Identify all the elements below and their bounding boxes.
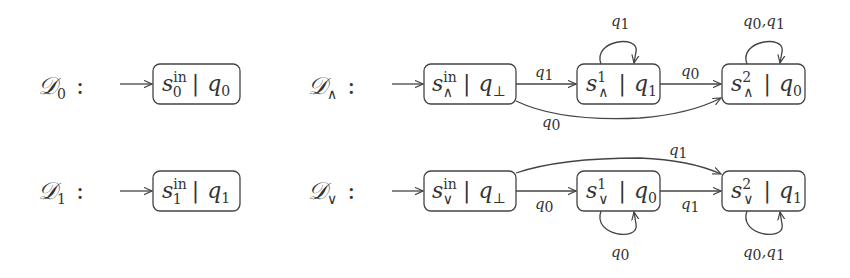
- automaton-name: 𝒟0:: [38, 72, 84, 102]
- transition-label: q0: [535, 195, 554, 215]
- svg-text:s2∨|q1: s2∨|q1: [731, 176, 802, 207]
- transition-label: q0: [681, 62, 700, 82]
- state-s-or-1: s1∨|q0: [577, 171, 660, 211]
- automaton-d0: 𝒟0: sin0|q0: [38, 64, 240, 104]
- svg-text:sin1|q1: sin1|q1: [162, 176, 230, 207]
- transition-label: q1: [681, 195, 700, 215]
- automata-diagram: 𝒟0: sin0|q0 𝒟1: sin1|q1 𝒟∧:: [0, 0, 850, 278]
- transition-label: q0,q1: [743, 243, 785, 263]
- state-s-and-in: sin∧|q⊥: [424, 64, 516, 104]
- automaton-name: 𝒟∧:: [308, 72, 355, 102]
- transition-label: q1: [669, 141, 688, 161]
- automaton-d-or: 𝒟∨: sin∨|q⊥ s1∨|q0 s2∨|q1 q0 q1 q0: [308, 141, 805, 263]
- automaton-name: 𝒟1:: [38, 177, 84, 207]
- transition-label: q1: [535, 63, 554, 83]
- state-s0-in: sin0|q0: [153, 64, 240, 104]
- self-loop-arrow-icon: [746, 42, 782, 64]
- state-s-and-1: s1∧|q1: [577, 64, 660, 104]
- svg-text:s1∧|q1: s1∧|q1: [586, 69, 657, 100]
- self-loop-arrow-icon: [600, 211, 636, 234]
- transition-label: q0: [542, 113, 561, 133]
- transition-label: q1: [611, 12, 630, 32]
- state-s-or-2: s2∨|q1: [722, 171, 805, 211]
- svg-text:s2∧|q0: s2∧|q0: [731, 69, 802, 100]
- state-s-and-2: s2∧|q0: [722, 64, 805, 104]
- self-loop-arrow-icon: [600, 42, 636, 64]
- svg-text:s1∨|q0: s1∨|q0: [586, 176, 657, 207]
- automaton-name: 𝒟∨:: [308, 177, 355, 207]
- state-s1-in: sin1|q1: [153, 171, 240, 211]
- automaton-d-and: 𝒟∧: sin∧|q⊥ s1∧|q1 s2∧|q0 q1 q0 q1: [308, 12, 805, 133]
- automaton-d1: 𝒟1: sin1|q1: [38, 171, 240, 211]
- svg-text:sin0|q0: sin0|q0: [162, 69, 230, 100]
- state-s-or-in: sin∨|q⊥: [424, 171, 516, 211]
- self-loop-arrow-icon: [746, 211, 782, 234]
- transition-label: q0,q1: [743, 12, 785, 32]
- transition-label: q0: [611, 243, 630, 263]
